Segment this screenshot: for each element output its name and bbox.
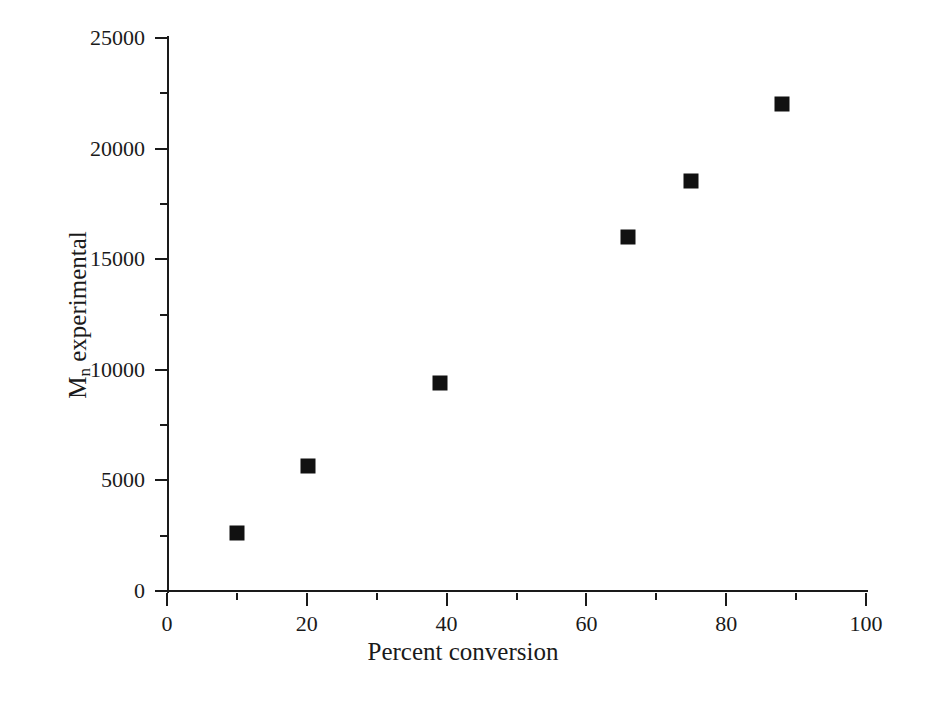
x-axis-tick-label: 60	[575, 613, 597, 635]
x-axis-major-tick	[725, 593, 727, 606]
y-axis-tick-label: 25000	[17, 27, 145, 49]
y-axis-title: Mn experimental	[64, 115, 95, 515]
x-axis-minor-tick	[795, 593, 797, 600]
y-axis-major-tick	[155, 369, 167, 371]
y-axis-minor-tick	[160, 92, 167, 94]
x-axis-minor-tick	[376, 593, 378, 600]
x-axis-tick-label: 0	[162, 613, 173, 635]
y-axis-major-tick	[155, 258, 167, 260]
x-axis-tick-label: 20	[296, 613, 318, 635]
x-axis-major-tick	[585, 593, 587, 606]
x-axis-major-tick	[446, 593, 448, 606]
data-point-marker	[621, 230, 636, 245]
y-axis-title-main: M	[64, 377, 91, 399]
scatter-chart-figure: 0500010000150002000025000 020406080100 P…	[0, 0, 926, 707]
data-point-marker	[432, 376, 447, 391]
y-axis-minor-tick	[160, 203, 167, 205]
x-axis-minor-tick	[236, 593, 238, 600]
x-axis-major-tick	[865, 593, 867, 606]
y-axis-title-subscript: n	[75, 368, 94, 377]
y-axis-major-tick	[155, 148, 167, 150]
y-axis-minor-tick	[160, 424, 167, 426]
y-axis-major-tick	[155, 479, 167, 481]
x-axis-line	[167, 590, 868, 592]
y-axis-major-tick	[155, 590, 167, 592]
x-axis-major-tick	[306, 593, 308, 606]
y-axis-minor-tick	[160, 535, 167, 537]
x-axis-minor-tick	[655, 593, 657, 600]
y-axis-major-tick	[155, 37, 167, 39]
y-axis-title-rest: experimental	[64, 231, 91, 368]
x-axis-major-tick	[166, 593, 168, 606]
y-axis-line	[167, 36, 169, 593]
data-point-marker	[684, 173, 699, 188]
x-axis-tick-label: 40	[436, 613, 458, 635]
data-point-marker	[301, 459, 316, 474]
x-axis-title: Percent conversion	[0, 638, 926, 666]
y-axis-minor-tick	[160, 314, 167, 316]
x-axis-tick-label: 100	[850, 613, 883, 635]
x-axis-tick-label: 80	[715, 613, 737, 635]
data-point-marker	[775, 97, 790, 112]
data-point-marker	[229, 526, 244, 541]
x-axis-minor-tick	[516, 593, 518, 600]
y-axis-tick-label: 0	[17, 580, 145, 602]
